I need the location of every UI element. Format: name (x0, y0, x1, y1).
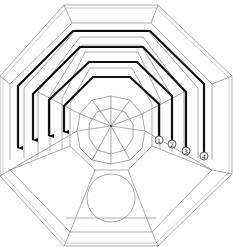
svg-text:3: 3 (184, 148, 188, 155)
label-3: 3 (182, 147, 190, 155)
label-1: 1 (155, 136, 163, 144)
perspective-lines (0, 5, 232, 246)
svg-text:2: 2 (170, 141, 174, 148)
svg-text:4: 4 (202, 153, 206, 160)
label-4: 4 (200, 152, 208, 160)
outer-octagon-frame (0, 5, 232, 246)
path-labels: 1 2 3 4 (155, 136, 208, 160)
octagon-tunnel-diagram: 1 2 3 4 (0, 0, 233, 247)
spider-web (10, 92, 212, 170)
label-2: 2 (168, 140, 176, 148)
svg-text:1: 1 (157, 137, 161, 144)
floor-circle (87, 174, 135, 222)
